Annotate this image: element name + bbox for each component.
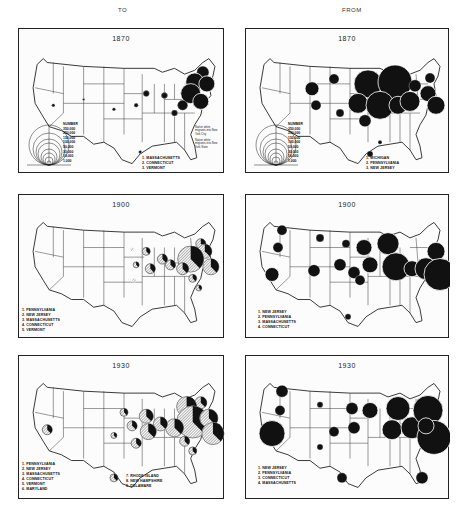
state-legend-to-1900: 1. PENNSYLVANIA 2. NEW JERSEY 3. MASSACH…: [22, 308, 60, 333]
size-scale-to: NUMBER 350,000 250,000 150,000 100,000 5…: [63, 122, 78, 163]
panel-year: 1900: [19, 201, 223, 208]
column-header-from: FROM: [342, 7, 362, 13]
panel-year: 1870: [246, 35, 448, 42]
us-map-drawing: [19, 29, 225, 174]
key-new-york-state: Native white migrants into New York Stat…: [195, 139, 221, 149]
map-panel-to-1870: 1870: [18, 28, 224, 173]
state-legend-from-1930: 1. NEW JERSEY 2. PENNSYLVANIA 3. CONNECT…: [258, 466, 296, 486]
us-map-drawing: [246, 29, 450, 174]
panel-year: 1930: [19, 362, 223, 369]
legend-item: 4. MASSACHUSETTS: [258, 481, 296, 486]
column-header-to: TO: [118, 7, 127, 13]
panel-year: 1870: [19, 35, 223, 42]
legend-item: 4. CONNECTICUT: [258, 325, 296, 330]
map-panel-from-1870: 1870: [245, 28, 449, 173]
panel-year: 1900: [246, 201, 448, 208]
key-new-york-city: Native white migrants into New York City: [195, 126, 221, 136]
state-legend-to-1870: 1. MASSACHUSETTS 2. CONNECTICUT 3. VERMO…: [142, 156, 180, 171]
legend-item: 9. DELAWARE: [126, 484, 163, 489]
state-legend-to-1930: 1. PENNSYLVANIA 2. NEW JERSEY 3. MASSACH…: [22, 462, 60, 492]
legend-item: 3. VERMONT: [142, 166, 180, 171]
legend-item: 3. NEW JERSEY: [366, 166, 399, 171]
legend-item: 6. MARYLAND: [22, 487, 60, 492]
legend-item: 5. VERMONT: [22, 328, 60, 333]
state-legend-from-1870: 1. MICHIGAN 2. PENNSYLVANIA 3. NEW JERSE…: [366, 156, 399, 171]
state-legend-to-1930-continued: 7. RHODE ISLAND 8. NEW HAMPSHIRE 9. DELA…: [126, 474, 163, 489]
state-legend-from-1900: 1. NEW JERSEY 2. PENNSYLVANIA 3. MASSACH…: [258, 310, 296, 330]
panel-year: 1930: [246, 362, 448, 369]
size-scale-from: NUMBER 350,000 250,000 150,000 100,000 5…: [288, 122, 303, 163]
